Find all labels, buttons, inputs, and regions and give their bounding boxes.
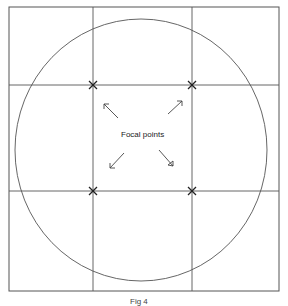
figure-caption: Fig 4 (130, 297, 148, 306)
arrow-down-left-icon (110, 153, 124, 168)
arrow-down-right-icon (159, 150, 173, 166)
arrow-up-left-icon (104, 104, 118, 118)
outer-frame (9, 7, 279, 291)
focal-points-label: Focal points (121, 130, 164, 139)
composition-circle (15, 19, 267, 281)
arrow-up-right-icon (168, 101, 182, 114)
